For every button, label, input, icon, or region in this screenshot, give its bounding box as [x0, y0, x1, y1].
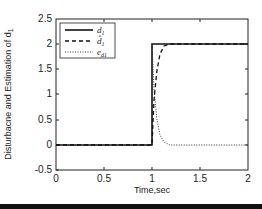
svg-text:1.5: 1.5	[193, 173, 207, 184]
svg-text:2.5: 2.5	[38, 13, 52, 24]
svg-text:1: 1	[46, 88, 52, 99]
svg-text:0: 0	[46, 139, 52, 150]
svg-text:-0.5: -0.5	[35, 164, 53, 175]
series-d1	[56, 44, 248, 145]
svg-text:1.5: 1.5	[38, 63, 52, 74]
series-ed1	[152, 44, 248, 145]
x-axis-label: Time,sec	[134, 185, 171, 195]
legend: d1 d̂1 ed1	[60, 23, 115, 58]
svg-text:2: 2	[46, 38, 52, 49]
svg-text:2: 2	[245, 173, 251, 184]
bottom-border	[0, 204, 262, 209]
svg-text:0.5: 0.5	[38, 114, 52, 125]
y-axis-label: Disturbacne and Estimation of d1	[3, 28, 14, 160]
chart: -0.5 0 0.5 1 1.5 2 2.5 0 0.5 1 1.5 2 Tim…	[0, 0, 262, 209]
svg-text:0.5: 0.5	[97, 173, 111, 184]
svg-text:0: 0	[53, 173, 59, 184]
svg-text:1: 1	[149, 173, 155, 184]
